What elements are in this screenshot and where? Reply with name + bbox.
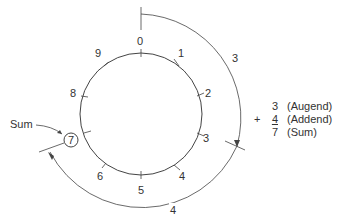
augend-value: 3 — [262, 100, 278, 113]
wheel-number-9: 9 — [95, 47, 101, 59]
augend-arrowhead — [234, 140, 240, 147]
sum-label: (Sum) — [287, 126, 317, 139]
augend-arc — [141, 14, 241, 146]
wheel-number-2: 2 — [205, 87, 211, 99]
wheel-ticks — [81, 49, 204, 179]
plus-operator: + — [254, 113, 260, 126]
wheel-number-1: 1 — [178, 47, 184, 59]
wheel-number-6: 6 — [97, 170, 103, 182]
augend-end-marker — [225, 141, 245, 150]
wheel-number-5: 5 — [138, 184, 144, 196]
number-wheel — [80, 53, 202, 175]
wheel-number-4: 4 — [179, 170, 185, 182]
wheel-number-0: 0 — [137, 35, 143, 47]
addend-label: (Addend) — [287, 113, 332, 126]
augend-arc-label: 3 — [232, 52, 238, 64]
sum-callout-label: Sum — [10, 118, 33, 130]
addend-arc — [50, 146, 237, 208]
augend-label: (Augend) — [287, 100, 332, 113]
sum-callout-arrowhead — [57, 130, 62, 134]
wheel-number-8: 8 — [70, 87, 76, 99]
addend-arc-label: 4 — [170, 204, 176, 216]
sum-value: 7 — [262, 126, 278, 139]
sum-end-marker — [39, 143, 64, 152]
addend-value: 4 — [262, 113, 278, 126]
wheel-number-7: 7 — [68, 134, 74, 146]
wheel-number-3: 3 — [203, 132, 209, 144]
